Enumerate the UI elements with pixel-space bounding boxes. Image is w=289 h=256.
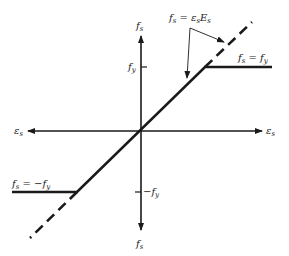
stress-strain-curve xyxy=(12,67,272,192)
label-eps-left: εs xyxy=(14,125,23,138)
label-fy-negative: −fy xyxy=(143,186,160,199)
annotation-yield-positive: fs = fy xyxy=(237,52,269,65)
elastic-extension-bottom xyxy=(30,192,77,238)
label-fs-bottom: fs xyxy=(135,238,144,251)
annotation-yield-negative: fs = −fy xyxy=(11,178,51,191)
stress-strain-diagram: fs fs εs εs fy −fy fs = εsEs fs = fy fs … xyxy=(0,0,289,256)
label-eps-right: εs xyxy=(266,125,275,138)
leader-to-dashed xyxy=(190,28,224,42)
label-fy-positive: fy xyxy=(127,61,137,74)
label-fs-top: fs xyxy=(135,20,144,33)
leader-to-curve xyxy=(187,28,190,78)
annotation-elastic-equation: fs = εsEs xyxy=(168,12,211,25)
